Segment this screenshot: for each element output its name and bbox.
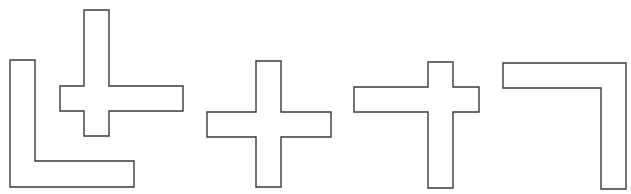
reversed-l-shape: [503, 63, 626, 189]
cross-shape-offset-left: [354, 62, 479, 188]
cross-shape-offset-right: [60, 10, 183, 136]
shapes-diagram: [0, 0, 631, 194]
cross-shape-symmetric: [207, 61, 331, 187]
l-shape: [10, 60, 134, 187]
